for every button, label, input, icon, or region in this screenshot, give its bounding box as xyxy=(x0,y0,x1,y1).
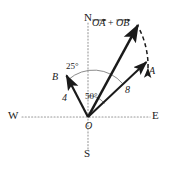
angle-label-25-degrees: 25° xyxy=(66,62,79,71)
resultant-label-oa: OA xyxy=(92,17,105,28)
vector-notation-ob: OB xyxy=(116,18,129,28)
vector-notation-oa: OA xyxy=(92,18,105,28)
magnitude-label-ob: 4 xyxy=(62,93,67,103)
point-label-b: B xyxy=(52,72,58,82)
resultant-label-plus: + xyxy=(107,17,114,28)
compass-label-south: S xyxy=(84,148,90,159)
angle-label-50-degrees: 50° xyxy=(85,92,98,101)
compass-label-west: W xyxy=(8,110,18,121)
construction-line-dashed xyxy=(140,30,149,69)
resultant-label-ob: OB xyxy=(116,17,129,28)
magnitude-label-oa: 8 xyxy=(125,85,130,95)
compass-label-east: E xyxy=(152,110,159,121)
compass-label-north: N xyxy=(84,12,92,23)
arc-25-degrees xyxy=(69,70,123,83)
point-label-origin: O xyxy=(85,121,92,131)
vector-resultant xyxy=(88,25,138,117)
vector-diagram: N S W E O A B 8 4 25° 50° OA+OB xyxy=(0,0,172,170)
diagram-canvas xyxy=(0,0,172,170)
point-label-a: A xyxy=(149,66,155,76)
resultant-expression-label: OA+OB xyxy=(92,18,129,28)
